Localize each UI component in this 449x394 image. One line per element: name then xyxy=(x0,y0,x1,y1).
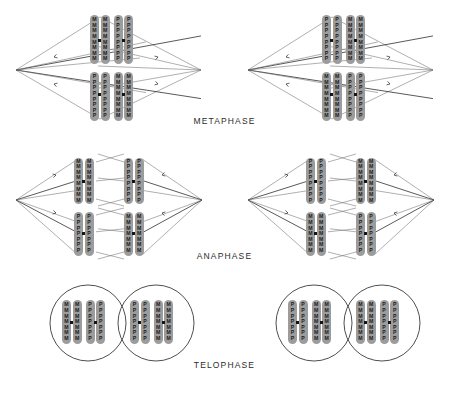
spindle-arrowhead xyxy=(155,56,158,60)
metaphase-cell-2-bottom-pair-2-chromatid-2: PPPPPPPP xyxy=(356,72,365,121)
telophase-cell-1-right-nucleus-pair-1-chromatid-2: PPPPPPP xyxy=(141,300,150,344)
chromatid-letter: M xyxy=(314,336,318,342)
spindle-fiber xyxy=(372,190,434,200)
spindle-arrowhead xyxy=(155,81,158,85)
centromere xyxy=(162,321,165,324)
chromatid-letter: P xyxy=(137,198,140,204)
centromere xyxy=(70,321,73,324)
spindle-fiber xyxy=(248,200,312,223)
chromatid-letter: P xyxy=(291,336,294,342)
anaphase-cell-1-right-top-chromatid-2: PPPPPPPP xyxy=(135,158,144,204)
phase-label-telophase: TELOPHASE xyxy=(0,360,449,370)
anaphase-cell-1-left-bottom-chromatid-2: PPPPPPP xyxy=(85,212,94,256)
chromatid-letter: P xyxy=(88,336,91,342)
spindle-fiber xyxy=(144,200,202,232)
centromere xyxy=(138,321,141,324)
chromatid-letter: M xyxy=(75,336,79,342)
chromatid-letter: M xyxy=(358,336,362,342)
anaphase-cell-2-left-bottom-chromatid-2: MMMMMMM xyxy=(317,212,326,256)
chromatid-letter: M xyxy=(76,198,80,204)
spindle-arrowhead xyxy=(53,210,56,214)
metaphase-cell-1-bottom-pair-1-chromatid-1: PPPPPPPP xyxy=(90,72,99,121)
spindle-fiber xyxy=(140,190,202,200)
spindle-fiber xyxy=(376,200,434,232)
telophase-cell-1-right-nucleus-pair-2-chromatid-2: MMMMMMM xyxy=(164,300,173,344)
chromatid-letter: M xyxy=(92,56,96,62)
chromatid-letter: M xyxy=(359,56,363,62)
chromatid-letter: P xyxy=(127,56,130,62)
anaphase-cell-2-right-top-chromatid-2: MMMMMMMM xyxy=(367,158,376,204)
anaphase-cell-1-left-top-chromatid-2: MMMMMMMM xyxy=(85,158,94,204)
metaphase-cell-1-bottom-pair-1-chromatid-2: PPPPPPPP xyxy=(101,72,110,121)
chromatid-letter: P xyxy=(301,336,304,342)
centromere xyxy=(82,232,85,235)
chromatid-letter: P xyxy=(99,336,102,342)
chromatid-letter: M xyxy=(167,336,171,342)
spindle-fiber xyxy=(16,159,78,200)
meiosis-diagram: MMMMMMMMMMMMMMMMPPPPPPPPPPPPPPPPPPPPPPPP… xyxy=(0,0,449,394)
telophase-cell-1-left-nucleus-pair-1-chromatid-2: MMMMMMM xyxy=(73,300,82,344)
spindle-fiber xyxy=(328,70,433,89)
spindle-fiber xyxy=(248,159,310,200)
centromere xyxy=(314,232,317,235)
spindle-fiber xyxy=(142,200,202,255)
telophase-cell-1-left-nucleus-pair-2-chromatid-2: PPPPPPP xyxy=(96,300,105,344)
spindle-fiber xyxy=(248,200,310,255)
spindle-arrowhead xyxy=(286,83,289,87)
anaphase-cell-2-right-bottom-chromatid-2: PPPPPPP xyxy=(367,212,376,256)
spindle-fiber xyxy=(142,159,202,200)
spindle-arrowhead xyxy=(387,81,390,85)
chromatid-letter: P xyxy=(319,198,322,204)
centromere xyxy=(94,321,97,324)
chromatid-letter: M xyxy=(103,56,107,62)
spindle-fiber xyxy=(16,200,76,232)
spindle-fiber xyxy=(140,200,202,223)
centromere xyxy=(122,93,125,96)
spindle-arrowhead xyxy=(286,54,289,58)
phase-label-anaphase: ANAPHASE xyxy=(0,251,449,261)
centromere xyxy=(314,180,317,183)
chromatid-letter: M xyxy=(325,336,329,342)
telophase-cell-2-right-nucleus-pair-2-chromatid-2: PPPPPPP xyxy=(390,300,399,344)
centromere xyxy=(98,39,101,42)
spindle-fiber xyxy=(372,200,434,223)
centromere xyxy=(364,180,367,183)
centromere xyxy=(98,93,101,96)
chromatid-letter: P xyxy=(133,336,136,342)
chromatid-letter: P xyxy=(116,56,119,62)
metaphase-cell-1-top-pair-2-chromatid-2: PPPPPPPP xyxy=(124,15,133,64)
telophase-cell-2-left-nucleus-pair-2-chromatid-2: MMMMMMM xyxy=(322,300,331,344)
chromatid-letter: M xyxy=(87,198,91,204)
chromatid-letter: P xyxy=(325,56,328,62)
centromere xyxy=(354,39,357,42)
centromere xyxy=(388,321,391,324)
chromatid-letter: M xyxy=(348,56,352,62)
centromere xyxy=(330,39,333,42)
spindle-fiber xyxy=(376,181,434,200)
centromere xyxy=(82,180,85,183)
chromatid-letter: M xyxy=(369,198,373,204)
chromatid-letter: P xyxy=(382,336,385,342)
metaphase-cell-2-top-pair-2-chromatid-2: MMMMMMMM xyxy=(356,15,365,64)
anaphase-cell-1-right-bottom-chromatid-2: MMMMMMM xyxy=(135,212,144,256)
metaphase-cell-2-bottom-pair-1-chromatid-2: MMMMMMMM xyxy=(333,72,342,121)
centromere xyxy=(330,93,333,96)
metaphase-cell-2-top-pair-1-chromatid-2: PPPPPPPP xyxy=(333,15,342,64)
spindle-fiber xyxy=(248,190,312,200)
chromatid-letter: P xyxy=(127,198,130,204)
spindle-fiber xyxy=(16,190,80,200)
spindle-arrowhead xyxy=(54,54,57,58)
telophase-cell-2-right-nucleus-pair-1-chromatid-2: MMMMMMM xyxy=(367,300,376,344)
phase-label-metaphase: METAPHASE xyxy=(0,116,449,126)
centromere xyxy=(320,321,323,324)
spindle-fiber xyxy=(248,200,308,232)
chromatid-letter: P xyxy=(309,198,312,204)
anaphase-cell-2-left-top-chromatid-2: PPPPPPPP xyxy=(317,158,326,204)
centromere xyxy=(132,232,135,235)
telophase-cell-2-left-nucleus-pair-1-chromatid-2: PPPPPPP xyxy=(299,300,308,344)
spindle-fiber xyxy=(248,181,308,200)
chromatid-letter: M xyxy=(358,198,362,204)
chromatid-letter: P xyxy=(335,56,338,62)
metaphase-cell-1-bottom-pair-2-chromatid-1: MMMMMMMM xyxy=(114,72,123,121)
centromere xyxy=(364,321,367,324)
